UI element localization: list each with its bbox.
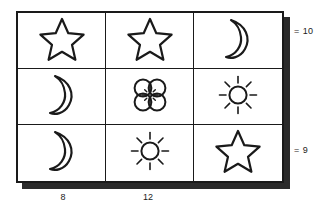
crescent-moon-icon xyxy=(43,73,81,121)
sun-icon xyxy=(216,73,260,121)
row-sum-label-0: =10 xyxy=(294,26,313,36)
crescent-moon-icon xyxy=(219,17,257,65)
grid-cell-r2c2[interactable] xyxy=(194,125,282,181)
grid-cell-r1c0[interactable] xyxy=(18,69,106,125)
puzzle-grid-border xyxy=(16,11,284,183)
star-icon xyxy=(214,128,262,178)
column-sum-label-0: 8 xyxy=(48,192,78,202)
row-sum-label-2: =9 xyxy=(294,145,308,155)
equals-sign: = xyxy=(294,26,300,36)
puzzle-grid xyxy=(18,13,282,181)
row-sum-value: 9 xyxy=(303,145,308,155)
grid-cell-r2c0[interactable] xyxy=(18,125,106,181)
column-sum-label-1: 12 xyxy=(133,192,163,202)
grid-cell-r0c1[interactable] xyxy=(106,13,194,69)
grid-cell-r0c0[interactable] xyxy=(18,13,106,69)
grid-cell-r1c1[interactable] xyxy=(106,69,194,125)
star-icon xyxy=(38,16,86,66)
equals-sign: = xyxy=(294,145,300,155)
flower-icon xyxy=(128,73,172,121)
grid-cell-r1c2[interactable] xyxy=(194,69,282,125)
row-sum-value: 10 xyxy=(303,26,314,36)
grid-cell-r2c1[interactable] xyxy=(106,125,194,181)
crescent-moon-icon xyxy=(43,129,81,177)
sun-icon xyxy=(128,129,172,177)
symbol-sum-puzzle: =10 =9 8 12 xyxy=(0,0,335,215)
star-icon xyxy=(126,16,174,66)
grid-cell-r0c2[interactable] xyxy=(194,13,282,69)
